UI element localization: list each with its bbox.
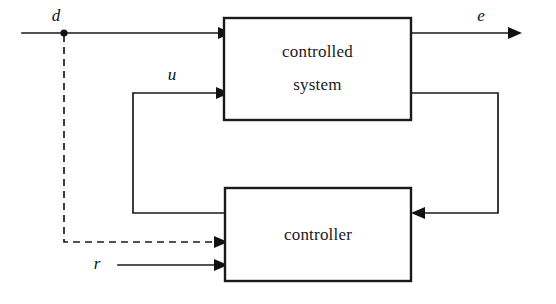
diagram-canvas: controlled system controller d u e r (0, 0, 556, 304)
wire-d-branch-dashed (64, 35, 214, 242)
signal-label-r: r (94, 254, 101, 273)
wire-u-control-signal (133, 93, 225, 213)
wire-feedback-to-controller (411, 93, 498, 213)
block-controlled-system[interactable] (224, 18, 411, 120)
block-controlled-system-label-line1: controlled (282, 42, 353, 61)
signal-label-u: u (168, 65, 177, 84)
signal-label-e: e (477, 6, 485, 25)
control-system-diagram: controlled system controller d u e r (0, 0, 556, 304)
arrowhead-e-output (508, 27, 522, 39)
block-controller-label: controller (284, 225, 352, 244)
arrowhead-feedback-into-controller (411, 207, 425, 219)
block-controlled-system-label-line2: system (293, 75, 341, 94)
signal-label-d: d (52, 6, 61, 25)
